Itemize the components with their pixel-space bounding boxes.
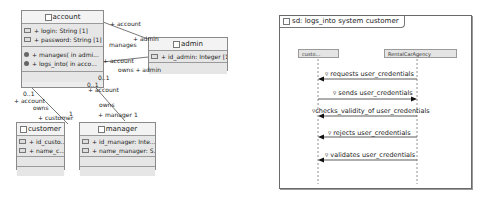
role-label: + account (103, 57, 134, 64)
association-name: owns + admin (118, 66, 161, 73)
attribute-icon (82, 148, 89, 153)
message-label[interactable]: ▿ validates user_credentials (325, 151, 415, 159)
empty-compartment (17, 167, 64, 176)
attributes-compartment: + id_manager: Inte... + name_manager: S.… (80, 136, 155, 157)
attribute-row[interactable]: + password: String [1] ( (24, 35, 103, 44)
multiplicity-label: 1 (69, 110, 73, 117)
class-icon (45, 14, 52, 21)
attribute-row[interactable]: + name_manager: S... (82, 146, 155, 155)
attribute-row[interactable]: + id_manager: Inte... (82, 137, 155, 146)
attribute-row[interactable]: + id_custo... (19, 137, 64, 146)
message-label[interactable]: ▿checks_validity_of user_credentials (312, 107, 430, 115)
class-account[interactable]: account + login: String [1] + password: … (21, 10, 104, 88)
attributes-compartment: + id_custo... + name_c... (17, 136, 64, 157)
attributes-compartment: + id_admin: Integer [1] (149, 51, 227, 63)
multiplicity-label: 0..1 (98, 74, 109, 81)
operation-row[interactable]: + manages( in admi... (24, 50, 103, 59)
message-icon: ▿ (328, 129, 331, 137)
role-label: + manager (98, 111, 132, 118)
empty-compartment (80, 167, 155, 176)
role-label: + account (110, 20, 141, 27)
operation-icon (24, 61, 29, 66)
multiplicity-label: 1 (134, 111, 138, 118)
role-label: + account (88, 86, 119, 93)
attribute-icon (24, 28, 31, 33)
class-header: manager (80, 123, 155, 136)
class-icon (20, 126, 27, 133)
operation-row[interactable]: + logs_into( in acco... (24, 59, 103, 68)
association-name: owns (99, 101, 115, 108)
class-header: admin (149, 38, 227, 51)
message-icon: ▿ (325, 151, 328, 159)
attribute-icon (24, 37, 31, 42)
attribute-icon (82, 139, 89, 144)
message-label[interactable]: ▿ sends user_credentials (333, 89, 413, 97)
sequence-diagram-frame[interactable]: sd: logs_into system customer custo... R… (279, 15, 472, 189)
message-label[interactable]: ▿ requests user_credentials (325, 70, 414, 78)
association-name: manages (109, 41, 137, 48)
class-manager[interactable]: manager + id_manager: Inte... + name_man… (79, 122, 156, 170)
attribute-icon (19, 148, 26, 153)
operation-icon (24, 52, 29, 57)
class-icon (173, 41, 180, 48)
attribute-row[interactable]: + name_c... (19, 146, 64, 155)
operations-compartment: + manages( in admi... + logs_into( in ac… (22, 47, 103, 72)
multiplicity-label: 0..1 (23, 90, 34, 97)
message-icon: ▿ (333, 89, 336, 97)
role-label: + account (14, 97, 45, 104)
attributes-compartment: + login: String [1] + password: String [… (22, 24, 103, 47)
class-header: customer (17, 123, 64, 136)
sequence-lines (280, 16, 471, 188)
attribute-icon (151, 54, 158, 59)
role-label: + customer (38, 114, 73, 121)
association-name: owns (33, 104, 49, 111)
empty-compartment (17, 157, 64, 167)
message-label[interactable]: ▿ rejects user_credentials (328, 129, 411, 137)
attribute-icon (19, 139, 26, 144)
attribute-row[interactable]: + id_admin: Integer [1] (151, 52, 227, 61)
class-header: account (22, 11, 103, 24)
empty-compartment (80, 157, 155, 167)
class-icon (98, 126, 105, 133)
attribute-row[interactable]: + login: String [1] (24, 26, 103, 35)
class-customer[interactable]: customer + id_custo... + name_c... (16, 122, 65, 170)
message-icon: ▿ (325, 70, 328, 78)
